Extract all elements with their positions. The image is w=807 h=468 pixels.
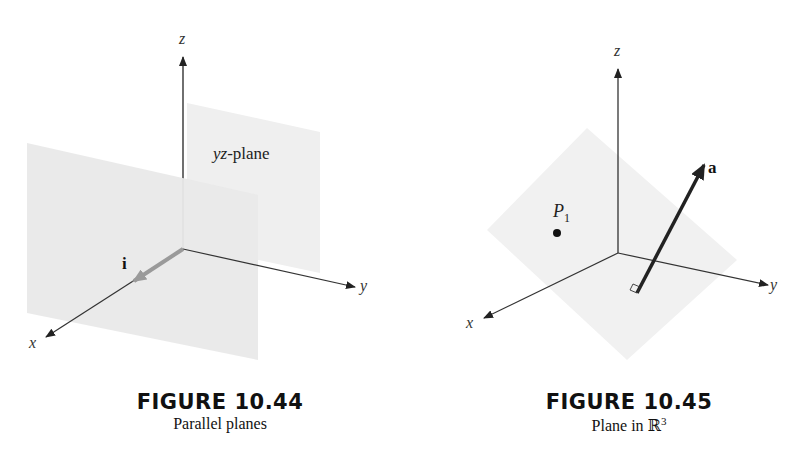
a-vector-label: a xyxy=(708,158,717,178)
figure-10-44-title: FIGURE 10.44 xyxy=(70,390,370,414)
z-axis-label: z xyxy=(179,30,185,48)
y-axis-label: y xyxy=(360,277,367,295)
figure-10-44-subtitle: Parallel planes xyxy=(70,415,370,433)
yz-plane-label-italic: yz xyxy=(213,144,227,163)
figure-10-44-diagram xyxy=(27,57,355,360)
y-axis-label: y xyxy=(770,276,777,294)
caption-text: Plane in xyxy=(592,417,648,434)
caption-superscript: 3 xyxy=(661,415,667,427)
figure-10-45-title: FIGURE 10.45 xyxy=(479,390,779,414)
i-vector-label: i xyxy=(122,254,127,274)
yz-plane-label: yz-plane xyxy=(213,144,270,164)
z-axis-label: z xyxy=(614,42,620,60)
point-p1 xyxy=(553,229,561,237)
p1-label-subscript: 1 xyxy=(564,211,570,225)
real-numbers-symbol: ℝ xyxy=(648,416,661,435)
figure-10-45-caption: FIGURE 10.45 Plane in ℝ3 xyxy=(479,390,779,435)
p1-label-letter: P xyxy=(553,201,564,221)
plane xyxy=(487,128,737,360)
p1-label: P1 xyxy=(553,201,570,226)
x-axis-label: x xyxy=(466,314,473,332)
x-axis-label: x xyxy=(29,334,36,352)
yz-plane-label-rest: -plane xyxy=(227,144,269,163)
figure-10-44-caption: FIGURE 10.44 Parallel planes xyxy=(70,390,370,433)
figure-10-45-subtitle: Plane in ℝ3 xyxy=(479,415,779,435)
figure-10-45-diagram xyxy=(484,69,768,360)
